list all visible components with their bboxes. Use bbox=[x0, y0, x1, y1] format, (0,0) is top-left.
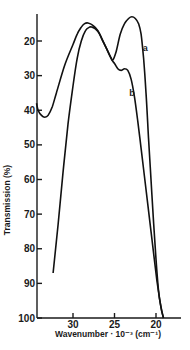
y-tick-label: 50 bbox=[24, 139, 36, 150]
chart: 2030405060708090100 302520 ab Transmissi… bbox=[0, 0, 190, 350]
y-tick-label: 40 bbox=[24, 105, 36, 116]
curve-label-a: a bbox=[143, 43, 149, 53]
curves bbox=[37, 17, 164, 318]
y-tick-label: 90 bbox=[24, 278, 36, 289]
y-tick-label: 20 bbox=[24, 36, 36, 47]
y-axis-title: Transmission (%) bbox=[2, 165, 12, 236]
x-ticks: 302520 bbox=[67, 313, 162, 330]
y-tick-label: 70 bbox=[24, 209, 36, 220]
y-tick-label: 80 bbox=[24, 243, 36, 254]
series-a-line bbox=[37, 17, 164, 318]
y-tick-label: 60 bbox=[24, 174, 36, 185]
y-tick-label: 30 bbox=[24, 70, 36, 81]
x-axis-title: Wavenumber · 10⁻³ (cm⁻¹) bbox=[55, 329, 161, 339]
curve-label-b: b bbox=[129, 88, 135, 98]
series-b-line bbox=[53, 27, 163, 318]
y-tick-label: 100 bbox=[18, 313, 35, 324]
plot-area: 2030405060708090100 302520 ab bbox=[18, 14, 181, 330]
y-ticks: 2030405060708090100 bbox=[18, 36, 42, 324]
